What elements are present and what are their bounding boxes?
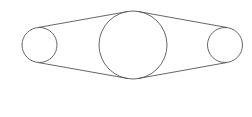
belt-bottom-right bbox=[138, 63, 227, 79]
pulleys bbox=[22, 11, 243, 79]
belt-bottom-left bbox=[38, 63, 128, 79]
right-pulley bbox=[208, 28, 243, 63]
belt-top-right bbox=[138, 12, 227, 28]
left-pulley bbox=[22, 28, 57, 63]
belt bbox=[38, 12, 227, 79]
center-pulley bbox=[99, 11, 167, 79]
belt-pulley-diagram bbox=[0, 0, 252, 117]
belt-top-left bbox=[38, 12, 128, 28]
